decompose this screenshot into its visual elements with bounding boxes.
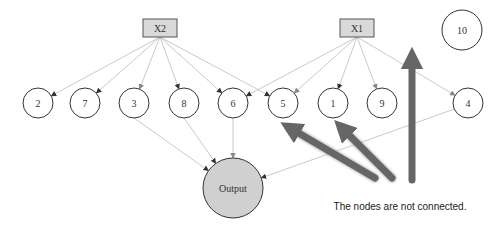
svg-text:2: 2 — [36, 98, 41, 109]
node-7[interactable]: 7 — [70, 88, 100, 118]
svg-text:7: 7 — [83, 98, 88, 109]
node-6[interactable]: 6 — [218, 88, 248, 118]
svg-text:8: 8 — [182, 98, 187, 109]
network-diagram: X2X127386519410Output The nodes are not … — [0, 0, 503, 228]
node-4[interactable]: 4 — [453, 88, 483, 118]
svg-text:10: 10 — [457, 25, 467, 36]
annotation-label: The nodes are not connected. — [334, 201, 467, 212]
edge-X1-6 — [246, 37, 357, 96]
edge-3-Output — [134, 118, 209, 171]
node-2[interactable]: 2 — [23, 88, 53, 118]
edge-X2-8 — [160, 37, 179, 89]
diagram-canvas: X2X127386519410Output The nodes are not … — [0, 0, 503, 228]
input-box-X2[interactable]: X2 — [143, 19, 177, 37]
edge-X1-9 — [357, 37, 377, 89]
svg-text:9: 9 — [380, 98, 385, 109]
node-9[interactable]: 9 — [367, 88, 397, 118]
svg-text:4: 4 — [466, 98, 471, 109]
svg-text:X1: X1 — [351, 23, 363, 34]
svg-text:3: 3 — [132, 98, 137, 109]
edge-X1-4 — [357, 37, 455, 95]
svg-text:6: 6 — [231, 98, 236, 109]
node-1[interactable]: 1 — [318, 88, 348, 118]
edge-X2-2 — [51, 37, 160, 96]
svg-text:1: 1 — [331, 98, 336, 109]
svg-text:Output: Output — [219, 183, 247, 194]
node-3[interactable]: 3 — [119, 88, 149, 118]
output-node[interactable]: Output — [203, 158, 263, 218]
svg-text:5: 5 — [281, 98, 286, 109]
node-8[interactable]: 8 — [169, 88, 199, 118]
edge-X2-7 — [96, 37, 160, 93]
edge-X2-3 — [139, 37, 160, 89]
annotation-layer: The nodes are not connected. — [290, 58, 466, 212]
node-10[interactable]: 10 — [442, 10, 482, 50]
input-box-X1[interactable]: X1 — [340, 19, 374, 37]
edge-X1-1 — [338, 37, 357, 89]
node-5[interactable]: 5 — [268, 88, 298, 118]
svg-text:X2: X2 — [154, 23, 166, 34]
